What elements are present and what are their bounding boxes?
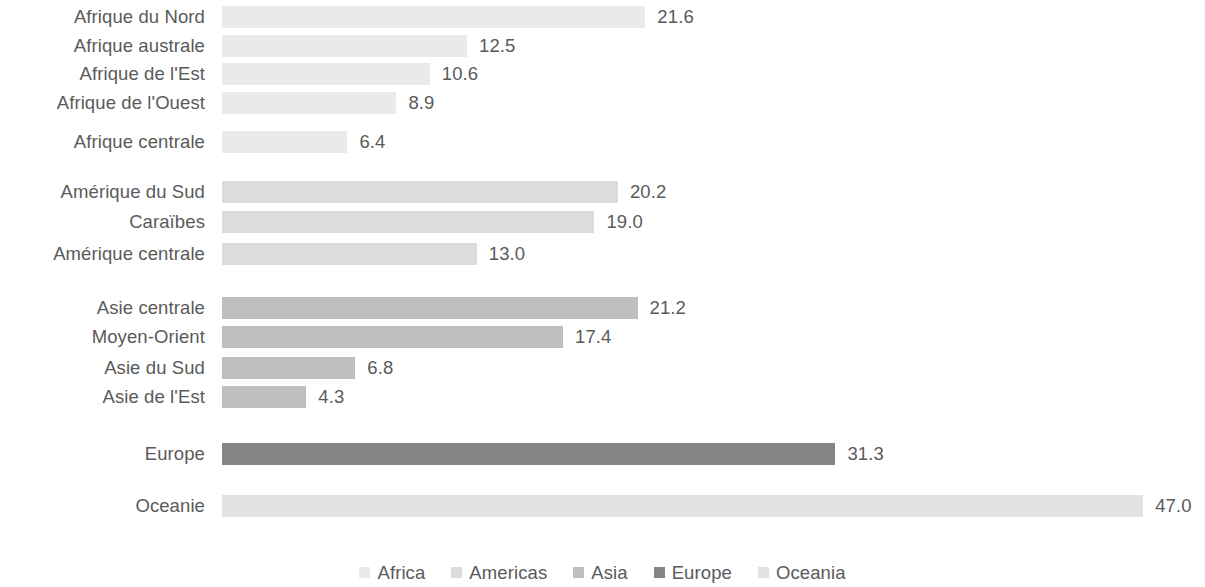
category-label: Afrique centrale	[0, 131, 205, 153]
chart-row: Amérique du Sud20.2	[0, 181, 1205, 203]
bar-value-label: 21.2	[650, 297, 686, 319]
bar[interactable]	[222, 326, 563, 348]
category-label: Afrique de l'Ouest	[0, 92, 205, 114]
legend-label: Europe	[672, 562, 732, 584]
category-label: Asie centrale	[0, 297, 205, 319]
category-label: Afrique de l'Est	[0, 63, 205, 85]
chart-row: Europe31.3	[0, 443, 1205, 465]
category-label: Amérique centrale	[0, 243, 205, 265]
bar-value-label: 20.2	[630, 181, 666, 203]
bar-value-label: 21.6	[657, 6, 693, 28]
chart-row: Afrique de l'Est10.6	[0, 63, 1205, 85]
bar-value-label: 6.8	[367, 357, 393, 379]
legend-label: Asia	[591, 562, 627, 584]
bar-value-label: 47.0	[1155, 495, 1191, 517]
plot-area: Afrique du Nord21.6Afrique australe12.5A…	[0, 0, 1205, 550]
bar-value-label: 8.9	[408, 92, 434, 114]
category-label: Europe	[0, 443, 205, 465]
category-label: Moyen-Orient	[0, 326, 205, 348]
chart-row: Asie centrale21.2	[0, 297, 1205, 319]
legend-swatch-icon	[359, 567, 370, 578]
legend-label: Africa	[377, 562, 425, 584]
legend-label: Americas	[469, 562, 547, 584]
bar[interactable]	[222, 92, 396, 114]
category-label: Asie du Sud	[0, 357, 205, 379]
chart-row: Moyen-Orient17.4	[0, 326, 1205, 348]
bar-value-label: 19.0	[606, 211, 642, 233]
legend-item[interactable]: Europe	[654, 562, 732, 584]
bar[interactable]	[222, 297, 638, 319]
chart-row: Asie du Sud6.8	[0, 357, 1205, 379]
bar[interactable]	[222, 243, 477, 265]
bar-value-label: 31.3	[847, 443, 883, 465]
legend-swatch-icon	[573, 567, 584, 578]
bar[interactable]	[222, 131, 347, 153]
category-label: Oceanie	[0, 495, 205, 517]
bar[interactable]	[222, 495, 1143, 517]
chart-row: Afrique du Nord21.6	[0, 6, 1205, 28]
category-label: Afrique du Nord	[0, 6, 205, 28]
bar-chart: Afrique du Nord21.6Afrique australe12.5A…	[0, 0, 1205, 587]
legend-item[interactable]: Africa	[359, 562, 425, 584]
chart-row: Caraïbes19.0	[0, 211, 1205, 233]
category-label: Asie de l'Est	[0, 386, 205, 408]
bar-value-label: 6.4	[359, 131, 385, 153]
legend-item[interactable]: Asia	[573, 562, 627, 584]
chart-row: Afrique australe12.5	[0, 35, 1205, 57]
chart-row: Oceanie47.0	[0, 495, 1205, 517]
chart-row: Asie de l'Est4.3	[0, 386, 1205, 408]
bar[interactable]	[222, 6, 645, 28]
bar-value-label: 12.5	[479, 35, 515, 57]
chart-row: Afrique de l'Ouest8.9	[0, 92, 1205, 114]
legend-swatch-icon	[758, 567, 769, 578]
bar-value-label: 13.0	[489, 243, 525, 265]
bar-value-label: 10.6	[442, 63, 478, 85]
legend-item[interactable]: Americas	[451, 562, 547, 584]
chart-row: Afrique centrale6.4	[0, 131, 1205, 153]
bar[interactable]	[222, 386, 306, 408]
bar[interactable]	[222, 211, 594, 233]
legend-swatch-icon	[654, 567, 665, 578]
bar-value-label: 17.4	[575, 326, 611, 348]
category-label: Afrique australe	[0, 35, 205, 57]
legend-swatch-icon	[451, 567, 462, 578]
bar[interactable]	[222, 35, 467, 57]
category-label: Caraïbes	[0, 211, 205, 233]
chart-legend: AfricaAmericasAsiaEuropeOceania	[0, 558, 1205, 587]
bar[interactable]	[222, 357, 355, 379]
bar[interactable]	[222, 63, 430, 85]
legend-label: Oceania	[776, 562, 846, 584]
bar-value-label: 4.3	[318, 386, 344, 408]
bar[interactable]	[222, 181, 618, 203]
chart-row: Amérique centrale13.0	[0, 243, 1205, 265]
bar[interactable]	[222, 443, 835, 465]
legend-item[interactable]: Oceania	[758, 562, 846, 584]
category-label: Amérique du Sud	[0, 181, 205, 203]
